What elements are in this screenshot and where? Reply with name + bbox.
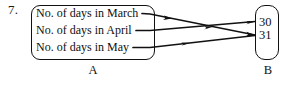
mapping-diagram: 7. No. of days in March No. of days in A… bbox=[0, 0, 289, 87]
arrowhead-may-mid bbox=[181, 43, 190, 46]
question-number: 7. bbox=[8, 2, 18, 18]
arrowhead-april-mid bbox=[204, 26, 213, 29]
set-a-element-march: No. of days in March bbox=[36, 7, 152, 20]
set-a-element-april: No. of days in April bbox=[36, 24, 152, 37]
arrow-march-to-31 bbox=[142, 14, 255, 36]
set-a-label: A bbox=[73, 63, 113, 78]
set-b-label: B bbox=[248, 63, 288, 78]
set-b-element-31: 31 bbox=[259, 29, 272, 42]
arrowhead-march-mid bbox=[163, 15, 172, 20]
set-a-element-may: No. of days in May bbox=[36, 41, 152, 54]
